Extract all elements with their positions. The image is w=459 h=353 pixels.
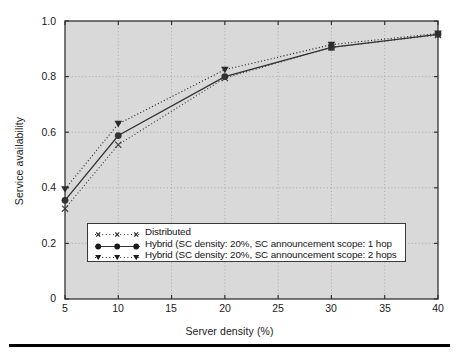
ytick-label-10: 1.0 — [26, 15, 56, 27]
ytick-label-04: 0.4 — [26, 181, 56, 193]
xtick-label-40: 40 — [423, 302, 453, 314]
circle-marker-icon — [94, 238, 141, 249]
data-point-marker — [221, 73, 228, 80]
ytick-label-02: 0.2 — [26, 237, 56, 249]
page-rule-highlight — [9, 338, 450, 339]
legend-label-distributed: Distributed — [145, 226, 191, 237]
figure-container: 0 0.2 0.4 0.6 0.8 1.0 5 10 15 20 25 30 3… — [0, 0, 459, 353]
chart-plot-area — [0, 0, 459, 353]
legend-item-hybrid-1hop: Hybrid (SC density: 20%, SC announcement… — [88, 238, 405, 250]
ytick-label-06: 0.6 — [26, 126, 56, 138]
xtick-label-10: 10 — [103, 302, 133, 314]
legend-label-hybrid-1hop: Hybrid (SC density: 20%, SC announcement… — [145, 238, 392, 249]
xtick-label-15: 15 — [156, 302, 186, 314]
xtick-label-5: 5 — [50, 302, 80, 314]
triangle-marker-icon — [94, 249, 141, 260]
xtick-label-25: 25 — [263, 302, 293, 314]
data-point-marker — [115, 132, 122, 139]
legend-item-hybrid-2hops: Hybrid (SC density: 20%, SC announcement… — [88, 249, 405, 261]
x-marker-icon — [94, 226, 141, 237]
ytick-label-08: 0.8 — [26, 70, 56, 82]
page-bottom-rule — [9, 344, 450, 347]
xtick-label-20: 20 — [210, 302, 240, 314]
legend-item-distributed: Distributed — [88, 226, 405, 238]
legend-label-hybrid-2hops: Hybrid (SC density: 20%, SC announcement… — [145, 249, 397, 260]
xtick-label-30: 30 — [316, 302, 346, 314]
x-axis-title: Server density (%) — [0, 325, 459, 337]
chart-legend: Distributed Hybrid (SC density: 20%, SC … — [87, 223, 406, 262]
y-axis-title: Service availability — [13, 81, 25, 241]
xtick-label-35: 35 — [370, 302, 400, 314]
